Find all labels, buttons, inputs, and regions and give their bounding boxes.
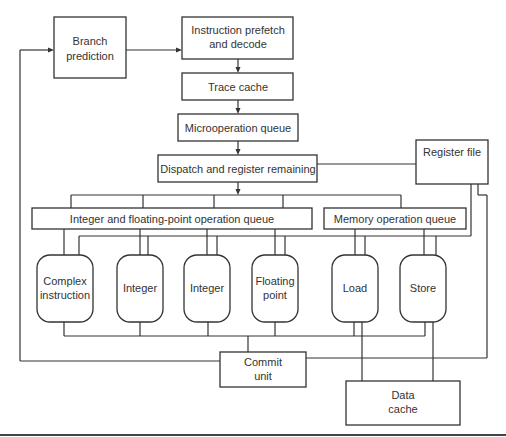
arrowhead-icon bbox=[236, 189, 241, 195]
fp-label-1: Floating bbox=[255, 275, 294, 287]
branch-prediction-label-2: prediction bbox=[66, 50, 114, 62]
microoperation-queue-label: Microoperation queue bbox=[185, 122, 291, 134]
node-register-file: Register file bbox=[416, 140, 488, 184]
unit-integer-1: Integer bbox=[117, 255, 163, 322]
complex-label-2: instruction bbox=[40, 289, 90, 301]
unit-integer-2: Integer bbox=[184, 255, 230, 322]
arrowhead-icon bbox=[236, 108, 241, 114]
commit-label-1: Commit bbox=[244, 356, 282, 368]
branch-prediction-label-1: Branch bbox=[73, 35, 108, 47]
node-dispatch: Dispatch and register remaining bbox=[158, 155, 317, 182]
unit-load: Load bbox=[332, 255, 378, 322]
int-fp-queue-label: Integer and floating-point operation que… bbox=[70, 213, 274, 225]
node-commit-unit: Commit unit bbox=[220, 352, 306, 387]
unit-floating-point: Floating point bbox=[252, 255, 298, 322]
unit-complex-instruction: Complex instruction bbox=[37, 255, 93, 322]
arrowhead-icon bbox=[236, 149, 241, 155]
node-instruction-prefetch: Instruction prefetch and decode bbox=[182, 17, 293, 59]
arrowhead-icon bbox=[176, 48, 182, 53]
node-int-fp-queue: Integer and floating-point operation que… bbox=[32, 208, 312, 229]
integer-2-label: Integer bbox=[190, 282, 225, 294]
prefetch-label-1: Instruction prefetch bbox=[191, 24, 285, 36]
integer-1-label: Integer bbox=[123, 282, 158, 294]
data-cache-label-1: Data bbox=[391, 389, 415, 401]
dispatch-label: Dispatch and register remaining bbox=[160, 163, 315, 175]
load-label: Load bbox=[343, 282, 367, 294]
trace-cache-label: Trace cache bbox=[208, 81, 268, 93]
data-cache-label-2: cache bbox=[388, 403, 417, 415]
commit-label-2: unit bbox=[254, 370, 272, 382]
memory-queue-label: Memory operation queue bbox=[334, 213, 456, 225]
node-branch-prediction: Branch prediction bbox=[54, 17, 126, 78]
arrowhead-icon bbox=[236, 67, 241, 73]
node-data-cache: Data cache bbox=[346, 381, 460, 425]
store-label: Store bbox=[410, 282, 436, 294]
arrowhead-icon bbox=[48, 48, 54, 53]
prefetch-label-2: and decode bbox=[209, 38, 267, 50]
unit-store: Store bbox=[400, 255, 446, 322]
register-file-label: Register file bbox=[423, 146, 481, 158]
node-memory-queue: Memory operation queue bbox=[324, 208, 466, 229]
node-microoperation-queue: Microoperation queue bbox=[178, 114, 298, 141]
node-trace-cache: Trace cache bbox=[182, 73, 293, 100]
fp-label-2: point bbox=[263, 289, 287, 301]
processor-pipeline-diagram: Branch prediction Instruction prefetch a… bbox=[0, 0, 506, 437]
complex-label-1: Complex bbox=[43, 275, 87, 287]
